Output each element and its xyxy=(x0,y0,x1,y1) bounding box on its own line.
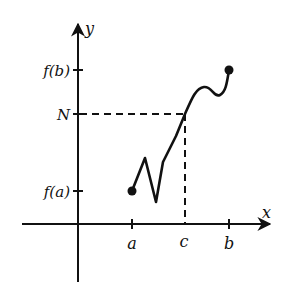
end-point xyxy=(225,66,234,75)
y-axis-label: y xyxy=(84,19,95,38)
label-fa: f(a) xyxy=(43,183,70,201)
label-fb: f(b) xyxy=(42,62,70,80)
label-b: b xyxy=(224,234,234,253)
function-curve xyxy=(132,70,229,202)
start-point xyxy=(128,187,137,196)
x-axis-label: x xyxy=(262,203,271,222)
label-a: a xyxy=(127,234,137,253)
label-N: N xyxy=(56,106,71,124)
label-c: c xyxy=(180,232,189,251)
ivt-diagram: y x f(b) N f(a) a c b xyxy=(0,0,284,302)
